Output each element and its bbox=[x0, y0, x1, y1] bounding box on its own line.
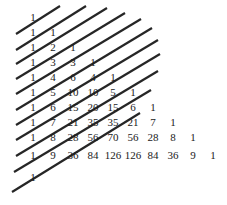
pascal-cell: 1 bbox=[23, 170, 43, 185]
pascal-cell: 10 bbox=[83, 85, 103, 100]
pascal-cell: 1 bbox=[23, 130, 43, 145]
pascal-cell: 1 bbox=[103, 70, 123, 85]
pascal-cell: 36 bbox=[163, 148, 183, 163]
pascal-cell: 35 bbox=[103, 115, 123, 130]
pascal-cell: 8 bbox=[43, 130, 63, 145]
pascal-cell: 6 bbox=[43, 100, 63, 115]
pascal-cell: 1 bbox=[83, 55, 103, 70]
pascal-cell: 3 bbox=[63, 55, 83, 70]
pascal-cell: 1 bbox=[23, 70, 43, 85]
pascal-cell: 126 bbox=[103, 148, 123, 163]
pascal-cell: 21 bbox=[123, 115, 143, 130]
pascals-triangle-figure: 1111211331146411510105116152015611721353… bbox=[0, 0, 227, 205]
pascal-cell: 3 bbox=[43, 55, 63, 70]
pascal-cell: 9 bbox=[43, 148, 63, 163]
pascal-cell: 2 bbox=[43, 40, 63, 55]
pascal-cell: 8 bbox=[163, 130, 183, 145]
pascal-cell: 1 bbox=[183, 130, 203, 145]
pascal-cell: 5 bbox=[103, 85, 123, 100]
pascal-cell: 20 bbox=[83, 100, 103, 115]
pascal-cell: 4 bbox=[43, 70, 63, 85]
pascal-cell: 15 bbox=[63, 100, 83, 115]
pascal-cell: 15 bbox=[103, 100, 123, 115]
pascal-cell: 1 bbox=[23, 115, 43, 130]
pascal-cell: 70 bbox=[103, 130, 123, 145]
pascal-cell: 84 bbox=[143, 148, 163, 163]
pascal-cell: 1 bbox=[23, 10, 43, 25]
pascal-cell: 56 bbox=[83, 130, 103, 145]
pascal-cell: 5 bbox=[43, 85, 63, 100]
pascal-cell: 35 bbox=[83, 115, 103, 130]
pascal-cell: 7 bbox=[143, 115, 163, 130]
pascal-cell: 1 bbox=[63, 40, 83, 55]
pascal-cell: 6 bbox=[63, 70, 83, 85]
pascal-cell: 1 bbox=[23, 85, 43, 100]
pascal-cell: 1 bbox=[203, 148, 223, 163]
pascal-cell: 36 bbox=[63, 148, 83, 163]
pascal-cell: 21 bbox=[63, 115, 83, 130]
pascal-cell: 1 bbox=[23, 25, 43, 40]
pascal-cell: 56 bbox=[123, 130, 143, 145]
pascal-cell: 7 bbox=[43, 115, 63, 130]
pascal-cell: 1 bbox=[123, 85, 143, 100]
pascal-cell: 1 bbox=[43, 25, 63, 40]
pascal-cell: 1 bbox=[23, 148, 43, 163]
pascal-cell: 1 bbox=[23, 55, 43, 70]
pascal-cell: 10 bbox=[63, 85, 83, 100]
pascal-number-grid: 1111211331146411510105116152015611721353… bbox=[0, 0, 227, 205]
pascal-cell: 1 bbox=[143, 100, 163, 115]
pascal-cell: 6 bbox=[123, 100, 143, 115]
pascal-cell: 28 bbox=[143, 130, 163, 145]
pascal-cell: 28 bbox=[63, 130, 83, 145]
pascal-cell: 1 bbox=[23, 100, 43, 115]
pascal-cell: 1 bbox=[23, 40, 43, 55]
pascal-cell: 4 bbox=[83, 70, 103, 85]
pascal-cell: 126 bbox=[123, 148, 143, 163]
pascal-cell: 1 bbox=[163, 115, 183, 130]
pascal-cell: 9 bbox=[183, 148, 203, 163]
pascal-cell: 84 bbox=[83, 148, 103, 163]
